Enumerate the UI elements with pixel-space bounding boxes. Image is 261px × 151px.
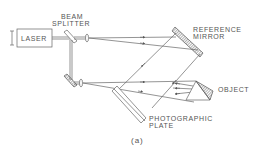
holography-setup-diagram: LASER BEAM SPLITTER REFERENCE MIRROR OBJ… [0, 0, 261, 151]
photographic-plate-label-line2: PLATE [149, 122, 174, 130]
optical-diagram-svg [0, 0, 261, 151]
laser-label: LASER [21, 35, 47, 43]
lens-top [86, 34, 89, 42]
object-pyramid [186, 81, 213, 100]
lens-bottom [80, 79, 83, 87]
object-label: OBJECT [218, 86, 249, 94]
beam-splitter [64, 30, 77, 43]
beam-splitter-label-line2: SPLITTER [52, 20, 90, 28]
figure-caption: (a) [131, 136, 144, 145]
reference-mirror-label-line2: MIRROR [193, 33, 225, 41]
lower-mirror [64, 74, 77, 87]
